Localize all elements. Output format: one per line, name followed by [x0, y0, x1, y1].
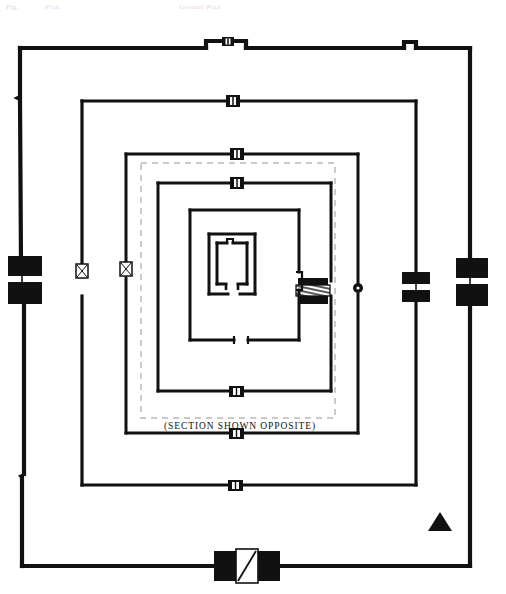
gopuram-east-outer — [456, 258, 488, 306]
gopuram-south-outer — [214, 549, 280, 583]
gate-east-second — [402, 272, 430, 302]
gate-south-fourth — [229, 386, 244, 397]
outer-enclosure-wall — [20, 41, 470, 566]
sanctum-door-nub — [227, 239, 233, 243]
plan-drawing-canvas: (SECTION SHOWN OPPOSITE) — [0, 0, 506, 594]
section-caption: (SECTION SHOWN OPPOSITE) — [164, 421, 316, 432]
gate-north-third — [230, 148, 244, 160]
gate-east-third — [353, 283, 363, 293]
temple-plan-figure: Fig. Plan Ground Plan — [0, 0, 506, 594]
gopuram-north-outer — [222, 37, 234, 46]
sanctum-threshold — [226, 284, 238, 290]
gate-south-second — [228, 480, 243, 491]
gate-west-third — [120, 262, 132, 276]
fifth-enclosure-wall — [190, 210, 299, 340]
sanctum-inner-cella — [217, 243, 247, 284]
gate-north-second — [226, 95, 240, 107]
north-indicator-icon — [428, 512, 452, 531]
gate-west-second — [76, 264, 88, 278]
gate-north-fourth — [230, 177, 244, 189]
gopuram-west-outer — [8, 256, 42, 304]
gate-south-fifth — [234, 336, 248, 344]
